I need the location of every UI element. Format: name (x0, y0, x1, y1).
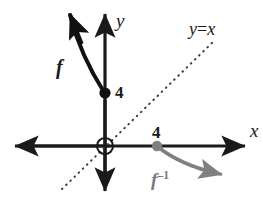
curve-f-inverse-exponent: –1 (157, 169, 169, 182)
math-figure: y x f f–1 y=x 4 4 (0, 0, 263, 201)
y-intercept-value-label: 4 (115, 84, 124, 101)
x-intercept-value-label: 4 (152, 124, 161, 141)
identity-line-label-x: x (207, 19, 215, 39)
point-y-intercept-dot (99, 87, 110, 98)
identity-line-label-equals: = (197, 19, 207, 39)
coordinate-plane-svg (0, 0, 263, 201)
curve-f-inverse-arrow (200, 169, 222, 175)
curve-f-inverse-label: f–1 (151, 170, 169, 189)
x-axis-label: x (250, 121, 258, 140)
y-axis-label: y (116, 11, 124, 30)
point-x-intercept-dot (152, 141, 162, 151)
identity-line-label-y: y (189, 19, 197, 39)
curve-f-label: f (56, 57, 63, 77)
identity-line-label: y=x (189, 20, 215, 38)
